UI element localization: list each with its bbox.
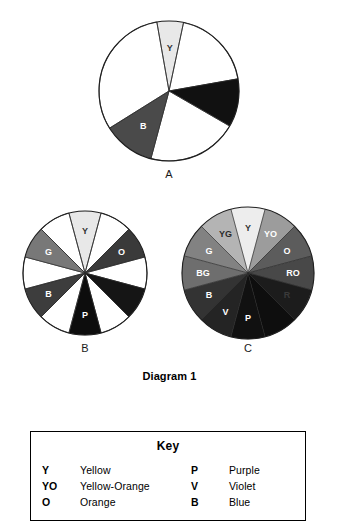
key-abbr: P: [191, 462, 229, 478]
key-column-left: Y Yellow YO Yellow-Orange O Orange: [42, 462, 191, 510]
key-entry: O Orange: [42, 494, 191, 510]
pie-segment-label: P: [245, 313, 251, 323]
key-entry: YO Yellow-Orange: [42, 478, 191, 494]
key-name: Orange: [80, 494, 116, 510]
key-abbr: Y: [42, 462, 80, 478]
pie-segment-label: Y: [245, 223, 251, 233]
key-entry: Y Yellow: [42, 462, 191, 478]
key-entry: B Blue: [191, 494, 305, 510]
key-entry: P Purple: [191, 462, 305, 478]
pie-segment-label: BG: [196, 268, 210, 278]
key-legend-box: Key Y Yellow YO Yellow-Orange O Orange P: [30, 431, 306, 521]
pie-segment-label: R: [284, 290, 291, 300]
key-name: Violet: [229, 478, 256, 494]
key-abbr: B: [191, 494, 229, 510]
pie-chart-c-label: C: [238, 342, 258, 354]
key-abbr: YO: [42, 478, 80, 494]
key-columns: Y Yellow YO Yellow-Orange O Orange P Pur…: [31, 462, 305, 510]
pie-segment-label: RO: [286, 268, 300, 278]
key-abbr: V: [191, 478, 229, 494]
key-name: Yellow-Orange: [80, 478, 150, 494]
key-column-right: P Purple V Violet B Blue: [191, 462, 305, 510]
key-entry: V Violet: [191, 478, 305, 494]
pie-segment-label: G: [206, 246, 213, 256]
diagram-caption: Diagram 1: [0, 370, 339, 382]
pie-segment-label: V: [223, 307, 229, 317]
key-name: Purple: [229, 462, 260, 478]
key-name: Blue: [229, 494, 250, 510]
pie-segment-label: YO: [264, 229, 277, 239]
pie-segment-label: YG: [219, 229, 232, 239]
key-name: Yellow: [80, 462, 111, 478]
pie-segment-label: O: [283, 246, 290, 256]
key-title: Key: [31, 439, 305, 453]
pie-segment-label: B: [206, 290, 213, 300]
key-abbr: O: [42, 494, 80, 510]
